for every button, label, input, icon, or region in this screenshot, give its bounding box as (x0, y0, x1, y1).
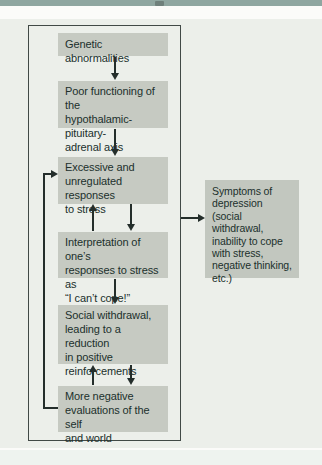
arrowhead-right-icon (51, 170, 58, 178)
node-genetic-abnormalities: Genetic abnormalities (58, 33, 168, 56)
node-symptoms-of-depression: Symptoms of depression (social withdrawa… (205, 180, 299, 278)
node-interpretation: Interpretation of one’s responses to str… (58, 232, 168, 278)
feedback-bottom-segment (43, 407, 58, 409)
arrowhead-down-icon (111, 73, 119, 80)
arrow-shaft (114, 279, 116, 298)
arrow-shaft (114, 57, 116, 74)
node-stress-responses: Excessive and unregulated responses to s… (58, 157, 168, 204)
arrow-shaft (92, 210, 94, 231)
arrowhead-down-icon (111, 149, 119, 156)
node-negative-evaluations: More negative evaluations of the self an… (58, 386, 168, 432)
arrowhead-down-icon (127, 224, 135, 231)
arrow-shaft (114, 129, 116, 150)
figure-flowchart-depression: Genetic abnormalities Poor functioning o… (0, 0, 322, 465)
arrowhead-down-icon (111, 297, 119, 304)
arrow-shaft (130, 204, 132, 225)
arrowhead-right-icon (198, 214, 205, 222)
page-top-mark (155, 1, 164, 6)
arrow-shaft (181, 217, 198, 219)
page-bottom-rule (0, 450, 322, 465)
arrow-shaft (130, 365, 132, 379)
arrow-shaft (92, 371, 94, 385)
arrowhead-down-icon (127, 378, 135, 385)
feedback-vertical-segment (43, 173, 45, 409)
node-hpa-axis: Poor functioning of the hypothalamic-pit… (58, 81, 168, 128)
node-social-withdrawal: Social withdrawal, leading to a reductio… (58, 305, 168, 364)
